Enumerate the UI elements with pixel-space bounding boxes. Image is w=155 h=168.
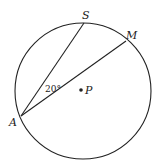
angle-label: 20° xyxy=(45,84,61,94)
label-a: A xyxy=(8,116,17,129)
label-p: P xyxy=(84,84,93,97)
chord-as xyxy=(21,23,84,116)
circle-diagram: S M A P 20° xyxy=(0,0,155,168)
label-m: M xyxy=(125,29,138,42)
chord-am xyxy=(21,41,126,116)
center-point-dot xyxy=(79,88,83,92)
label-s: S xyxy=(82,9,90,22)
circle xyxy=(15,23,151,159)
